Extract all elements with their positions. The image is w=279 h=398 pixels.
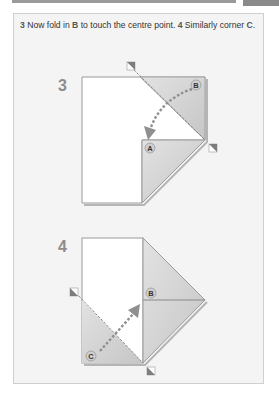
fold-marker-icon <box>209 144 217 152</box>
step-4-diagram: 4 B C <box>58 238 207 375</box>
label-c: C <box>86 351 96 361</box>
fold-marker-icon <box>147 367 155 375</box>
label-b: B <box>146 288 156 298</box>
step-3-number: 3 <box>58 77 67 94</box>
step-4-number: 4 <box>58 238 67 255</box>
label-a: A <box>145 143 155 153</box>
svg-text:B: B <box>193 81 199 90</box>
step-3-diagram: 3 B A <box>58 62 217 205</box>
fold-marker-icon <box>70 288 78 296</box>
svg-text:C: C <box>88 352 94 361</box>
label-b: B <box>191 80 201 90</box>
fold-marker-icon <box>127 62 135 70</box>
svg-text:B: B <box>148 289 154 298</box>
svg-text:A: A <box>147 144 153 153</box>
origami-diagrams: 3 B A 4 <box>0 0 279 398</box>
